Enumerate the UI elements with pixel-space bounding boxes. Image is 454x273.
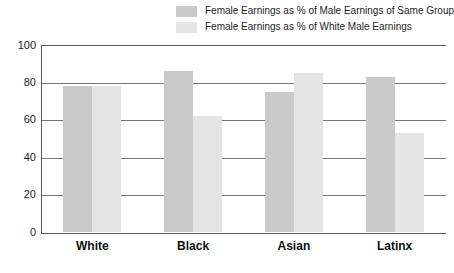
bar-groups: [42, 45, 445, 232]
x-tick-label-white: White: [42, 238, 143, 258]
y-tick-label-60: 60: [2, 114, 36, 125]
x-tick-label-latinx: Latinx: [344, 238, 445, 258]
bar-latinx-same-group: [366, 77, 395, 232]
legend-item-0: Female Earnings as % of Male Earnings of…: [176, 4, 449, 18]
legend-swatch-icon-1: [176, 22, 197, 33]
bar-pair: [265, 45, 323, 232]
chart-legend: Female Earnings as % of Male Earnings of…: [176, 4, 449, 36]
bar-asian-same-group: [265, 92, 294, 232]
x-tick-label-black: Black: [143, 238, 244, 258]
bar-asian-white-male: [294, 73, 323, 232]
bar-group-latinx: [344, 45, 445, 232]
legend-label-1: Female Earnings as % of White Male Earni…: [205, 21, 412, 33]
y-tick-label-20: 20: [2, 189, 36, 200]
legend-swatch-icon-0: [176, 6, 197, 17]
y-tick-label-80: 80: [2, 77, 36, 88]
bar-pair: [63, 45, 121, 232]
y-axis-labels: 100 80 60 40 20 0: [0, 45, 36, 232]
bar-latinx-white-male: [395, 133, 424, 232]
legend-label-0: Female Earnings as % of Male Earnings of…: [205, 5, 454, 17]
bar-white-white-male: [92, 86, 121, 232]
bar-white-same-group: [63, 86, 92, 232]
bar-black-white-male: [193, 116, 222, 232]
y-tick-label-0: 0: [2, 227, 36, 238]
bar-pair: [366, 45, 424, 232]
bar-group-black: [143, 45, 244, 232]
bar-black-same-group: [164, 71, 193, 232]
x-tick-label-asian: Asian: [244, 238, 345, 258]
bar-group-white: [42, 45, 143, 232]
y-tick-label-40: 40: [2, 152, 36, 163]
x-axis-labels: White Black Asian Latinx: [42, 238, 445, 258]
legend-item-1: Female Earnings as % of White Male Earni…: [176, 20, 449, 34]
bar-pair: [164, 45, 222, 232]
bar-group-asian: [244, 45, 345, 232]
y-tick-label-100: 100: [2, 40, 36, 51]
